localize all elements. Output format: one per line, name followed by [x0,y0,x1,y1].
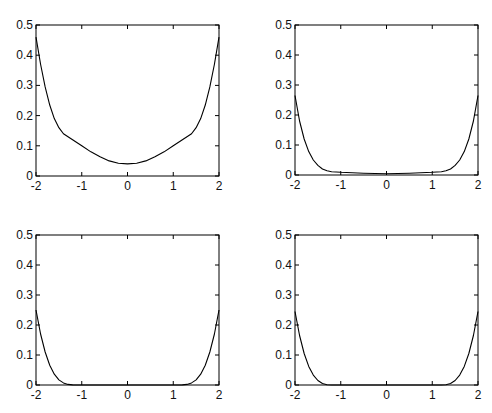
axes-box [295,235,478,385]
y-tick-label: 0.1 [275,348,292,362]
y-tick-label: 0.3 [275,288,292,302]
subplot-bottom-right: 00.10.20.30.40.5-2-1012 [0,0,492,413]
y-tick-label: 0.5 [275,228,292,242]
y-tick-label: 0.4 [275,258,292,272]
x-tick-label: -1 [335,388,346,402]
x-tick-label: 2 [475,388,482,402]
x-tick-label: -2 [290,388,301,402]
x-tick-label: 1 [429,388,436,402]
y-tick-label: 0.2 [275,318,292,332]
data-curve [295,312,478,386]
x-tick-label: 0 [383,388,390,402]
